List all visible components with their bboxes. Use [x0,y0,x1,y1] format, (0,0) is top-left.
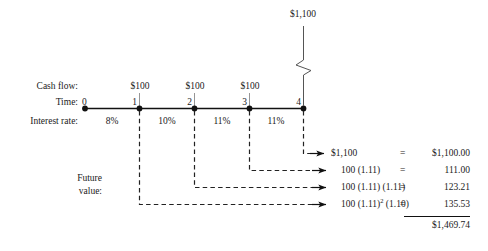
period-label-4: 4 [277,97,301,108]
time-row-label: Time: [0,97,78,109]
interest-rate-row-label: Interest rate: [0,116,78,128]
fv-amount-1: $1,100.00 [400,148,470,159]
period-label-1: 1 [113,97,137,108]
interest-rate-0-1: 8% [87,116,137,127]
fv-amount-2: 111.00 [400,165,470,176]
cash-flow-period-3: $100 [224,81,276,92]
fv-formula-3: 100 (1.11) (1.11) [341,182,405,193]
fv-formula-4-text: 100 (1.11) [341,199,380,209]
node-4 [301,106,307,112]
future-value-total: $1,469.74 [400,220,470,231]
period-label-2: 2 [168,97,192,108]
node-2 [192,106,198,112]
terminal-value-connector [296,26,311,106]
connector-arrowheads [310,154,326,205]
fv-amount-3: 123.21 [400,182,470,193]
connector-node4 [304,111,317,154]
fv-formula-3-text: 100 (1.11) (1.11) [341,182,405,192]
cash-flow-period-1: $100 [114,81,166,92]
node-1 [137,106,143,112]
period-label-0: 0 [82,97,87,108]
fv-formula-2-text: 100 (1.11) [341,165,380,175]
interest-rate-2-3: 11% [197,116,247,127]
cash-flow-period-2: $100 [169,81,221,92]
fv-formula-2: 100 (1.11) [341,165,380,176]
terminal-cash-flow-label: $1,100 [248,9,358,20]
fv-formula-1: $1,100 [331,148,357,159]
fv-amount-4: 135.53 [400,199,470,210]
interest-rate-3-4: 11% [251,116,301,127]
fv-formula-1-text: $1,100 [331,148,357,158]
cash-flow-row-label: Cash flow: [0,81,78,93]
period-label-3: 3 [223,97,247,108]
node-3 [247,106,253,112]
fv-formula-4: 100 (1.11)2 (1.10) [341,199,409,210]
future-value-row-label-line2: value: [42,186,102,198]
future-value-row-label-line1: Future [42,173,102,185]
interest-rate-1-2: 10% [142,116,192,127]
